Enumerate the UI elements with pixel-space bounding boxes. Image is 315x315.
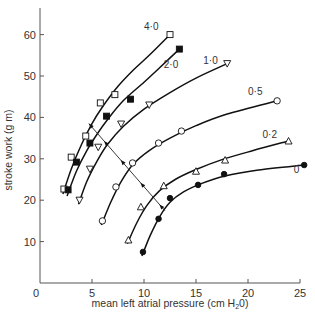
- open-square-marker: [83, 133, 89, 139]
- filled-circle-marker: [140, 249, 146, 255]
- filled-square-marker: [176, 46, 182, 52]
- filled-square-marker: [104, 113, 110, 119]
- open-triangle-up-marker: [137, 203, 144, 210]
- open-circle-marker: [274, 98, 280, 104]
- y-tick-label: 50: [24, 70, 36, 82]
- data-markers: [61, 32, 307, 255]
- open-circle-marker: [113, 184, 119, 190]
- open-square-marker: [167, 32, 173, 38]
- open-square-marker: [112, 92, 118, 98]
- series-label: 2·0: [164, 59, 179, 70]
- curve-05: [101, 101, 277, 225]
- series-label: 1·0: [203, 55, 218, 66]
- open-triangle-down-marker: [76, 197, 83, 204]
- filled-square-marker: [87, 140, 93, 146]
- curve-0: [142, 165, 304, 256]
- open-circle-marker: [99, 218, 105, 224]
- open-triangle-up-marker: [285, 137, 292, 144]
- series-label: 0: [294, 164, 300, 175]
- curve-02: [127, 141, 288, 244]
- y-axis-title: stroke work (g m): [2, 109, 14, 190]
- series-label: 0·2: [263, 129, 278, 140]
- x-tick-label: 0: [33, 287, 39, 299]
- filled-square-marker: [73, 159, 79, 165]
- filled-circle-marker: [167, 195, 173, 201]
- filled-circle-marker: [156, 216, 162, 222]
- open-triangle-down-marker: [224, 61, 231, 68]
- filled-circle-marker: [195, 182, 201, 188]
- y-tick-label: 40: [24, 111, 36, 123]
- y-tick-label: 30: [24, 153, 36, 165]
- open-circle-marker: [155, 140, 161, 146]
- x-axis-title-end: 0): [239, 297, 248, 309]
- arrow-line: [89, 124, 165, 211]
- x-axis-title-main: mean left atrial pressure (cm H: [92, 297, 236, 309]
- axes: 1020304050600510152025: [24, 8, 306, 299]
- curve-10: [78, 64, 227, 205]
- open-triangle-down-marker: [95, 144, 102, 151]
- open-square-marker: [97, 100, 103, 106]
- open-circle-marker: [129, 160, 135, 166]
- filled-circle-marker: [221, 171, 227, 177]
- x-tick-label: 25: [294, 287, 306, 299]
- x-axis-title: mean left atrial pressure (cm H20): [92, 297, 249, 310]
- open-circle-marker: [178, 128, 184, 134]
- filled-circle-marker: [301, 162, 307, 168]
- y-tick-label: 60: [24, 29, 36, 41]
- y-tick-label: 20: [24, 194, 36, 206]
- series-label: 0·5: [248, 86, 263, 97]
- curve-40: [63, 35, 170, 194]
- y-tick-label: 10: [24, 236, 36, 248]
- arrow-annotation: [89, 124, 165, 211]
- series-label: 4·0: [144, 21, 159, 32]
- filled-square-marker: [65, 187, 71, 193]
- filled-square-marker: [127, 96, 133, 102]
- stroke-work-chart: 1020304050600510152025 4·02·01·00·50·20 …: [0, 0, 315, 315]
